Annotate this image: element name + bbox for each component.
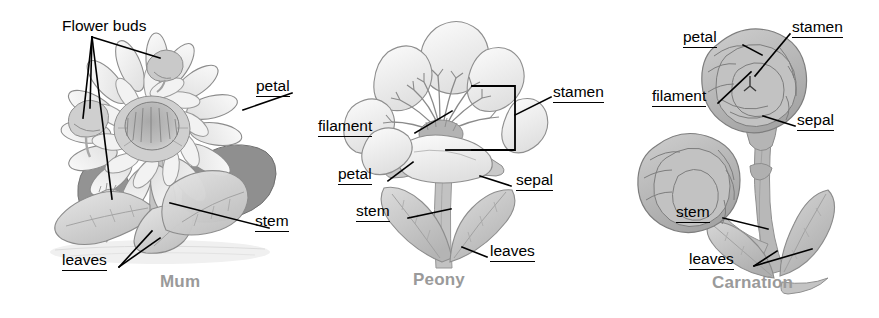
flower-bud-middle <box>68 100 108 157</box>
flower-bud-top <box>147 50 183 92</box>
label-flower-buds: Flower buds <box>62 18 146 34</box>
label-carnation-leaves: leaves <box>689 251 734 270</box>
caption-mum: Mum <box>160 272 200 292</box>
label-peony-stamen: stamen <box>553 84 604 103</box>
label-peony-leaves: leaves <box>490 243 535 262</box>
label-peony-filament: filament <box>318 118 372 137</box>
carnation-illustration <box>590 0 879 318</box>
label-peony-petal: petal <box>338 166 372 185</box>
flower-parts-figure: Flower buds petal stem leaves Mum filame… <box>0 0 879 318</box>
label-carnation-petal: petal <box>683 29 717 48</box>
caption-carnation: Carnation <box>712 273 793 293</box>
panel-mum <box>0 0 300 318</box>
label-mum-petal: petal <box>256 78 290 97</box>
label-carnation-filament: filament <box>652 88 706 107</box>
label-carnation-stem: stem <box>676 204 710 223</box>
label-carnation-stamen: stamen <box>792 19 843 38</box>
panel-carnation <box>590 0 879 318</box>
label-carnation-sepal: sepal <box>797 112 834 131</box>
label-peony-sepal: sepal <box>516 172 553 191</box>
mum-illustration <box>0 0 300 318</box>
label-peony-stem: stem <box>356 203 390 222</box>
label-mum-stem: stem <box>255 213 289 232</box>
flower-bud-bottom <box>92 183 128 242</box>
label-mum-leaves: leaves <box>62 252 107 271</box>
caption-peony: Peony <box>413 270 465 290</box>
